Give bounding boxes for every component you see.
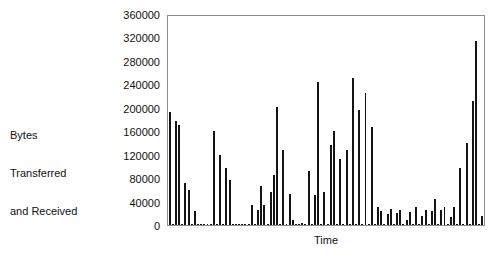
bar [263,205,265,226]
bar [181,224,183,225]
bar [456,224,458,225]
bar [346,150,348,225]
bar [169,112,171,225]
bar [387,214,389,225]
bar [462,224,464,225]
bar [188,190,190,225]
bar [358,110,360,225]
y-tick-label: 280000 [123,56,160,67]
bar [412,224,414,225]
bar [450,217,452,225]
bar [260,186,262,225]
bar [175,121,177,225]
bar [213,131,215,225]
bar [232,224,234,225]
bar [380,211,382,225]
bar [418,224,420,225]
y-tick-label: 120000 [123,150,160,161]
bar [459,168,461,225]
bar [365,93,367,225]
bar [374,224,376,225]
bar [197,224,199,225]
bar [447,224,449,225]
bar [304,224,306,225]
y-tick-label: 240000 [123,80,160,91]
bar [437,224,439,225]
y-axis-ticks: 0400008000012000016000020000024000028000… [106,0,164,260]
y-axis-label-line-1: Bytes [10,129,106,142]
bar [298,224,300,225]
bar [279,224,281,225]
bar [475,41,477,225]
bar [421,216,423,225]
y-tick-label: 360000 [123,10,160,21]
bar [428,224,430,225]
y-tick-label: 200000 [123,103,160,114]
bar [349,224,351,225]
bar [402,224,404,225]
bar [469,224,471,225]
bar [295,224,297,225]
bar [229,180,231,225]
bar [478,224,480,225]
plot-area [167,15,485,226]
y-tick-label: 0 [154,221,160,232]
chart-figure: Bytes Transferred and Received 040000800… [0,0,502,260]
bar [203,224,205,225]
bar [244,224,246,225]
bar [323,192,325,225]
bar [289,194,291,225]
bar [200,224,202,225]
x-axis-label: Time [167,234,485,246]
bar [409,212,411,225]
bar [219,155,221,225]
bar [371,127,373,225]
bar [434,199,436,225]
bar [390,209,392,225]
y-axis-label-line-3: and Received [10,205,106,218]
y-tick-label: 40000 [129,197,160,208]
bar [415,207,417,225]
bar [222,224,224,225]
bar [336,224,338,225]
y-tick-label: 160000 [123,127,160,138]
bar [333,131,335,225]
bar [301,223,303,225]
bar [396,213,398,225]
bar [225,168,227,225]
bar [267,224,269,225]
bar [241,224,243,225]
bar [248,224,250,225]
bar [368,224,370,225]
bar [308,171,310,225]
bar [377,207,379,225]
bar [273,175,275,225]
bar [355,224,357,225]
bar [314,195,316,225]
y-tick-label: 320000 [123,33,160,44]
bar [254,224,256,225]
bar [444,207,446,225]
bar [352,78,354,225]
y-axis-label-line-2: Transferred [10,167,106,180]
bar-series [168,16,484,225]
bar [317,82,319,225]
bar [282,150,284,225]
bar [270,192,272,225]
bar [327,224,329,225]
bar [292,220,294,225]
bar [184,183,186,225]
bar [472,101,474,225]
bar [431,211,433,225]
bar [194,211,196,225]
bar [286,224,288,225]
bar [466,143,468,225]
y-axis-label: Bytes Transferred and Received [10,104,106,243]
bar [320,224,322,225]
bar [399,210,401,225]
bar [393,224,395,225]
bar [191,224,193,225]
bar [425,210,427,225]
bar [207,224,209,225]
bar [453,207,455,225]
